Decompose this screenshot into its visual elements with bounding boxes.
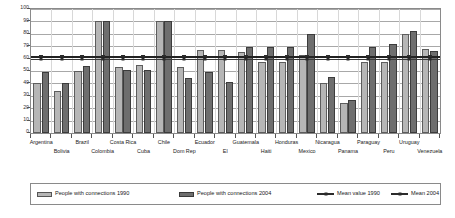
plot-area — [30, 8, 441, 134]
bar — [307, 34, 314, 133]
bar — [238, 52, 245, 133]
category-separator — [420, 9, 421, 133]
mean-line-marker — [407, 55, 411, 57]
bar — [340, 103, 347, 133]
chart-legend: People with connections 1990People with … — [30, 183, 441, 205]
bar — [164, 21, 171, 133]
y-axis-tick-label: 40 — [3, 80, 29, 85]
legend-item[interactable]: People with connections 2004 — [179, 191, 271, 197]
bar — [226, 82, 233, 133]
bar — [430, 51, 437, 133]
y-axis-tick-label: 80 — [3, 30, 29, 35]
mean-line-marker — [101, 55, 105, 57]
category-separator — [215, 9, 216, 133]
y-axis-tick-label: 0 — [3, 129, 29, 134]
legend-item[interactable]: Mean value 1990 — [317, 191, 380, 197]
x-axis-label: Venezuela — [417, 149, 442, 154]
bar — [258, 62, 265, 133]
bar — [62, 83, 69, 133]
x-axis-label: Brazil — [75, 140, 88, 145]
y-axis-tick-label: 90 — [3, 18, 29, 23]
category-separator — [154, 9, 155, 133]
x-axis-label: Mexico — [299, 149, 316, 154]
x-axis-label: Colombia — [91, 149, 114, 154]
bar — [287, 47, 294, 133]
mean-line-marker — [264, 55, 268, 57]
category-separator — [317, 9, 318, 133]
legend-line-marker — [398, 193, 401, 196]
x-axis-label: Panama — [338, 149, 358, 154]
mean-line-marker — [244, 55, 248, 57]
y-axis-tick-label: 60 — [3, 55, 29, 60]
category-separator — [133, 9, 134, 133]
bar — [144, 70, 151, 133]
category-separator — [92, 9, 93, 133]
bar — [103, 21, 110, 133]
bar — [381, 62, 388, 133]
bar — [299, 55, 306, 133]
category-separator — [236, 9, 237, 133]
x-axis-label: Chile — [158, 140, 170, 145]
y-axis-tick — [27, 107, 30, 108]
bar — [328, 77, 335, 133]
x-axis-labels: ArgentinaBoliviaBrazilColombiaCosta Rica… — [0, 138, 455, 164]
y-axis-tick — [27, 132, 30, 133]
x-axis-label: Honduras — [275, 140, 298, 145]
category-separator — [338, 9, 339, 133]
legend-item[interactable]: Mean 2004 — [391, 191, 439, 197]
legend-label: Mean value 1990 — [337, 191, 380, 197]
category-separator — [72, 9, 73, 133]
category-separator — [51, 9, 52, 133]
legend-swatch — [179, 192, 194, 197]
bar — [95, 21, 102, 133]
bar — [136, 65, 143, 133]
y-axis-tick-label: 30 — [3, 92, 29, 97]
y-axis-tick — [27, 82, 30, 83]
mean-line — [31, 56, 440, 58]
y-axis-tick — [27, 120, 30, 121]
mean-line-marker — [162, 55, 166, 57]
bar — [361, 62, 368, 133]
category-separator — [113, 9, 114, 133]
bar — [42, 72, 49, 133]
y-axis-tick — [27, 20, 30, 21]
bar — [402, 34, 409, 133]
bar — [197, 50, 204, 133]
x-axis-label: Nicaragua — [315, 140, 340, 145]
legend-label: People with connections 1990 — [55, 191, 129, 197]
chart-container: 1009080706050403020100 ArgentinaBoliviaB… — [0, 0, 455, 218]
x-axis-label: Ecuador — [195, 140, 215, 145]
bar — [267, 47, 274, 133]
y-axis-tick-label: 50 — [3, 67, 29, 72]
bar — [422, 49, 429, 133]
legend-label: Mean 2004 — [411, 191, 439, 197]
legend-item[interactable]: People with connections 1990 — [37, 191, 129, 197]
x-axis-label: Peru — [383, 149, 394, 154]
y-axis-tick — [27, 8, 30, 9]
category-separator — [358, 9, 359, 133]
mean-line-marker — [60, 55, 64, 57]
mean-line-marker — [182, 55, 186, 57]
category-separator — [276, 9, 277, 133]
y-axis-tick-label: 10 — [3, 117, 29, 122]
legend-line-swatch — [391, 191, 408, 197]
mean-line-marker — [326, 55, 330, 57]
y-axis-tick-label: 20 — [3, 105, 29, 110]
bar — [218, 50, 225, 133]
mean-line-marker — [121, 55, 125, 57]
y-axis-tick — [27, 45, 30, 46]
legend-label: People with connections 2004 — [197, 191, 271, 197]
bar — [185, 78, 192, 133]
x-axis-label: Bolivia — [54, 149, 70, 154]
bar — [54, 91, 61, 133]
mean-line-marker — [80, 55, 84, 57]
mean-line — [31, 59, 440, 60]
x-axis-label: Argentina — [30, 140, 53, 145]
bar — [115, 67, 122, 133]
y-axis-tick — [27, 70, 30, 71]
x-axis-label: Dom Rep — [173, 149, 196, 154]
mean-line-marker — [39, 55, 43, 57]
mean-line-marker — [428, 55, 432, 57]
category-separator — [195, 9, 196, 133]
y-axis-tick — [27, 33, 30, 34]
